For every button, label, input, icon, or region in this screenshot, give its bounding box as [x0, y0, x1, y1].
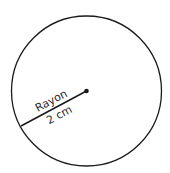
circle-diagram: Rayon 2 cm: [0, 0, 170, 173]
center-point: [84, 89, 89, 94]
